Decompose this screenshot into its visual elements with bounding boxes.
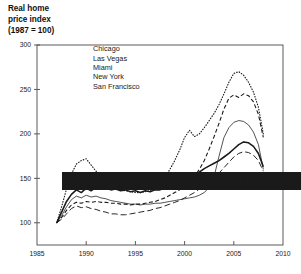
legend-item-san-francisco[interactable]: San Francisco <box>62 82 140 91</box>
chart-legend: ChicagoLas VegasMiamiNew YorkSan Francis… <box>62 44 140 91</box>
y-tick-label: 150 <box>20 175 32 182</box>
y-tick-label: 300 <box>20 41 32 48</box>
y-tick-label: 100 <box>20 219 32 226</box>
chart-figure: Real home price index (1987 = 100) 10015… <box>0 0 301 274</box>
y-tick-label: 250 <box>20 86 32 93</box>
y-tick-label: 200 <box>20 130 32 137</box>
x-tick-label: 1985 <box>29 250 44 257</box>
legend-key-icon <box>62 82 88 91</box>
